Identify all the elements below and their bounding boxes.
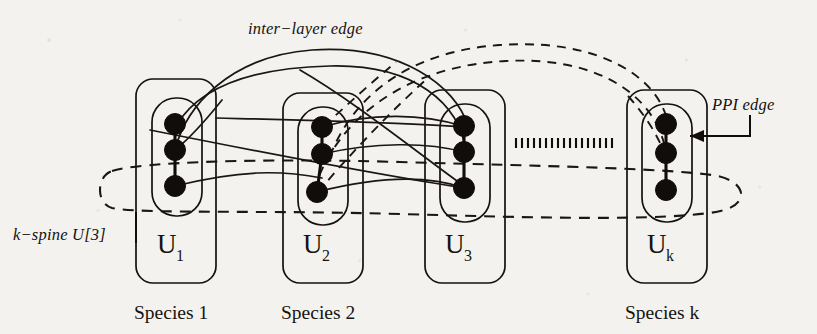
species-caption-k: Species k — [625, 302, 699, 323]
layer-k-nodes — [656, 114, 677, 201]
node-layer3-1 — [454, 142, 475, 163]
inter-layer-edges-solid — [150, 49, 468, 192]
uset-label-2: U 2 — [303, 229, 330, 264]
uset-label-k: U k — [647, 229, 674, 264]
ellipsis-ticks — [516, 138, 612, 148]
multilayer-network-diagram: inter−layer edge PPI edge k−spine U[3] U… — [0, 0, 817, 334]
species-caption-1: Species 1 — [134, 302, 208, 323]
inter-layer-edge-label: inter−layer edge — [248, 19, 363, 38]
ppi-edge-pointer — [690, 115, 750, 142]
node-layer2-0 — [312, 117, 333, 138]
node-layer2-1 — [312, 144, 333, 165]
node-layer1-1 — [165, 140, 186, 161]
inter-layer-edge-solid-6 — [317, 179, 464, 192]
uset-label-3-sub: 3 — [464, 247, 472, 264]
ppi-edge-label: PPI edge — [711, 95, 775, 114]
node-layer1-0 — [165, 114, 186, 135]
figure-canvas: inter−layer edge PPI edge k−spine U[3] U… — [0, 0, 817, 334]
uset-label-k-base: U — [647, 229, 667, 259]
species-caption-2: Species 2 — [281, 302, 355, 323]
layer-3-nodes — [454, 116, 475, 199]
uset-label-1-base: U — [157, 229, 177, 259]
uset-label-k-sub: k — [666, 247, 674, 264]
uset-label-3: U 3 — [445, 229, 472, 264]
uset-label-1: U 1 — [157, 229, 184, 264]
uset-label-1-sub: 1 — [176, 247, 184, 264]
uset-label-3-base: U — [445, 229, 465, 259]
node-layer3-0 — [454, 116, 475, 137]
node-layer1-2 — [165, 176, 186, 197]
layer-1-nodes — [165, 114, 186, 197]
node-layerk-0 — [656, 114, 677, 135]
inter-layer-edge-solid-4 — [322, 145, 463, 154]
node-layerk-2 — [656, 180, 677, 201]
uset-label-2-sub: 2 — [322, 247, 330, 264]
node-layerk-1 — [656, 143, 677, 164]
uset-label-2-base: U — [303, 229, 323, 259]
inter-layer-edge-solid-5 — [175, 173, 322, 186]
node-layer3-2 — [454, 178, 475, 199]
k-spine-label: k−spine U[3] — [13, 225, 106, 244]
node-layer2-2 — [307, 182, 328, 203]
